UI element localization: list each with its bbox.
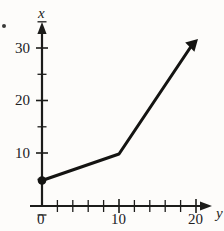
x-tick-label-0: 0	[37, 212, 45, 227]
data-start-point-marker	[38, 176, 47, 185]
y-tick-label-10: 10	[15, 146, 30, 161]
x-tick-label-20: 20	[188, 212, 203, 227]
y-axis-arrowhead	[37, 22, 46, 34]
y-axis-group	[36, 22, 48, 215]
horizontal-axis-label: y	[216, 206, 223, 221]
chart-canvas	[0, 0, 224, 231]
data-series-piecewise-line	[38, 39, 198, 185]
figure-root: x y 30 20 10 0 10 20	[0, 0, 224, 231]
x-axis-arrowhead	[200, 201, 212, 210]
y-tick-label-30: 30	[15, 41, 30, 56]
vertical-axis-label: x	[38, 6, 45, 21]
x-tick-label-10: 10	[111, 212, 126, 227]
y-tick-label-20: 20	[15, 93, 30, 108]
data-line-segments	[42, 45, 192, 181]
